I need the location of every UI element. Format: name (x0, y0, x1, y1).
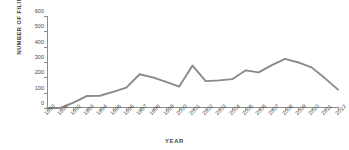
y-tick-mark-300 (44, 62, 48, 63)
x-tick-mark-2003 (219, 108, 220, 111)
x-axis-title: YEAR (0, 138, 349, 144)
y-tick-mark-500 (44, 31, 48, 32)
x-tick-mark-2008 (285, 108, 286, 111)
x-tick-mark-2006 (259, 108, 260, 111)
x-tick-mark-2011 (325, 108, 326, 111)
y-axis-tick-labels: 0100200300400500600 (22, 12, 44, 112)
y-tick-label-0: 0 (22, 101, 44, 107)
line-chart: NUMBER OF FILINGS 0100200300400500600 19… (0, 0, 349, 150)
x-tick-mark-1990 (47, 108, 48, 111)
x-tick-mark-1992 (73, 108, 74, 111)
x-tick-label-1990: 1990 (43, 103, 56, 116)
x-tick-mark-2004 (232, 108, 233, 111)
x-tick-mark-1999 (166, 108, 167, 111)
y-tick-label-400: 400 (22, 40, 44, 46)
series-line-number-of-filings (47, 16, 338, 108)
x-tick-mark-1997 (140, 108, 141, 111)
y-tick-label-300: 300 (22, 55, 44, 61)
x-tick-mark-1991 (60, 108, 61, 111)
plot-area (47, 16, 338, 108)
x-tick-mark-1998 (153, 108, 154, 111)
y-tick-mark-200 (44, 77, 48, 78)
x-tick-mark-1993 (87, 108, 88, 111)
y-tick-label-200: 200 (22, 70, 44, 76)
y-tick-label-600: 600 (22, 9, 44, 15)
y-tick-mark-100 (44, 93, 48, 94)
y-tick-label-500: 500 (22, 24, 44, 30)
x-tick-mark-2005 (245, 108, 246, 111)
x-tick-mark-1994 (100, 108, 101, 111)
x-tick-mark-2012 (338, 108, 339, 111)
x-tick-mark-2007 (272, 108, 273, 111)
x-tick-mark-2001 (193, 108, 194, 111)
x-tick-mark-2002 (206, 108, 207, 111)
y-tick-mark-600 (44, 16, 48, 17)
x-tick-mark-2009 (298, 108, 299, 111)
x-tick-mark-1995 (113, 108, 114, 111)
x-tick-mark-2010 (312, 108, 313, 111)
y-tick-label-100: 100 (22, 86, 44, 92)
y-tick-mark-400 (44, 47, 48, 48)
x-tick-mark-1996 (126, 108, 127, 111)
x-tick-mark-2000 (179, 108, 180, 111)
